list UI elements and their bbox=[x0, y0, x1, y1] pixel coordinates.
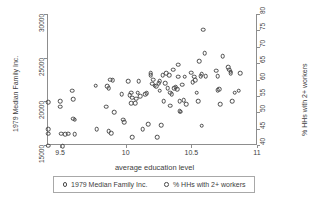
scatter-point bbox=[230, 99, 235, 104]
scatter-point bbox=[179, 110, 184, 115]
scatter-point bbox=[217, 87, 222, 92]
scatter-point bbox=[159, 123, 164, 128]
scatter-point bbox=[202, 51, 207, 56]
y-axis-right-tick-label: 80 bbox=[259, 7, 266, 14]
y-axis-right-tick-label: 40 bbox=[259, 138, 266, 145]
x-axis-tick-label: 11 bbox=[253, 149, 260, 156]
y-axis-left-title: 1979 Median Family Inc. bbox=[12, 56, 19, 132]
scatter-point bbox=[133, 101, 138, 106]
scatter-point bbox=[238, 71, 243, 76]
legend-label: 1979 Median Family Inc. bbox=[71, 181, 147, 188]
y-axis-right-tick-label: 55 bbox=[259, 89, 266, 96]
scatter-point bbox=[104, 104, 109, 109]
y-axis-right-tick bbox=[257, 63, 260, 64]
y-axis-right-tick-label: 45 bbox=[259, 121, 266, 128]
scatter-point bbox=[158, 89, 163, 94]
chart-legend: 1979 Median Family Inc. % HHs with 2+ wo… bbox=[53, 176, 255, 193]
x-axis-tick bbox=[126, 145, 127, 148]
y-axis-left-tick-label: 25000 bbox=[38, 58, 45, 76]
x-axis-title: average education level bbox=[0, 163, 309, 172]
scatter-point bbox=[46, 100, 51, 105]
scatter-point bbox=[167, 73, 172, 78]
scatter-point bbox=[176, 75, 181, 80]
scatter-point bbox=[162, 99, 167, 104]
scatter-point bbox=[71, 97, 76, 102]
scatter-point bbox=[201, 27, 206, 32]
scatter-point bbox=[221, 54, 226, 59]
scatter-point bbox=[137, 79, 142, 84]
axis-spine-bottom bbox=[47, 144, 257, 145]
plot-area: 15000200002500030000 404550556065707580 … bbox=[47, 14, 257, 145]
legend-label: % HHs with 2+ workers bbox=[173, 181, 246, 188]
legend-item-hhs-2plus-workers: % HHs with 2+ workers bbox=[164, 181, 245, 188]
y-axis-left-tick-label: 15000 bbox=[38, 145, 45, 163]
x-axis-tick bbox=[191, 145, 192, 148]
y-axis-right-tick bbox=[257, 30, 260, 31]
scatter-point bbox=[126, 79, 131, 84]
scatter-point bbox=[196, 99, 201, 104]
scatter-point bbox=[180, 82, 185, 87]
scatter-point bbox=[175, 87, 180, 92]
scatter-point bbox=[144, 91, 149, 96]
scatter-point bbox=[184, 102, 189, 107]
scatter-chart-figure: 1979 Median Family Inc. % HHs with 2+ wo… bbox=[0, 0, 309, 202]
scatter-point bbox=[129, 90, 134, 95]
y-axis-right-title: % HHs with 2+ workers bbox=[301, 63, 308, 136]
axis-spine-left bbox=[47, 14, 48, 145]
scatter-point bbox=[146, 122, 151, 127]
scatter-point bbox=[109, 131, 114, 136]
scatter-point bbox=[93, 83, 98, 88]
scatter-point bbox=[197, 59, 202, 64]
scatter-point bbox=[106, 86, 111, 91]
open-circle-icon bbox=[63, 182, 68, 187]
scatter-point bbox=[58, 104, 63, 109]
scatter-point bbox=[46, 144, 51, 149]
y-axis-right-tick-label: 75 bbox=[259, 23, 266, 30]
scatter-point bbox=[72, 117, 77, 122]
x-axis-tick-label: 9.5 bbox=[55, 149, 65, 156]
scatter-point bbox=[46, 131, 51, 136]
y-axis-right-tick-label: 70 bbox=[259, 40, 266, 47]
y-axis-right-tick bbox=[257, 112, 260, 113]
scatter-point bbox=[193, 78, 198, 83]
scatter-point bbox=[58, 99, 63, 104]
scatter-point bbox=[236, 89, 241, 94]
scatter-point bbox=[200, 123, 205, 128]
legend-item-median-family-inc: 1979 Median Family Inc. bbox=[63, 181, 148, 188]
x-axis-tick-label: 10 bbox=[122, 149, 130, 156]
scatter-point bbox=[158, 79, 163, 84]
scatter-point bbox=[215, 74, 220, 79]
scatter-point bbox=[60, 144, 65, 149]
scatter-point bbox=[194, 90, 199, 95]
scatter-point bbox=[151, 77, 156, 82]
scatter-point bbox=[176, 62, 181, 67]
x-axis-tick bbox=[257, 145, 258, 148]
scatter-point bbox=[130, 135, 135, 140]
scatter-point bbox=[169, 92, 174, 97]
scatter-point bbox=[214, 68, 219, 73]
scatter-point bbox=[141, 127, 146, 132]
scatter-point bbox=[70, 89, 75, 94]
scatter-point bbox=[120, 92, 125, 97]
y-axis-right-tick-label: 50 bbox=[259, 105, 266, 112]
x-axis-tick-label: 10.5 bbox=[185, 149, 199, 156]
y-axis-right-tick bbox=[257, 14, 260, 15]
scatter-point bbox=[228, 71, 233, 76]
y-axis-left-tick-label: 30000 bbox=[38, 14, 45, 32]
scatter-point bbox=[183, 75, 188, 80]
scatter-point bbox=[155, 135, 160, 140]
scatter-point bbox=[66, 131, 71, 136]
scatter-point bbox=[122, 120, 127, 125]
scatter-point bbox=[112, 110, 117, 115]
scatter-point bbox=[204, 74, 209, 79]
scatter-point bbox=[171, 68, 176, 73]
open-circle-icon bbox=[164, 182, 169, 187]
scatter-point bbox=[218, 102, 223, 107]
y-axis-right-tick-label: 60 bbox=[259, 72, 266, 79]
scatter-point bbox=[168, 103, 173, 108]
scatter-point bbox=[95, 127, 100, 132]
scatter-point bbox=[138, 94, 143, 99]
y-axis-right-tick bbox=[257, 96, 260, 97]
y-axis-left-tick-label: 20000 bbox=[38, 101, 45, 119]
y-axis-right-tick-label: 65 bbox=[259, 56, 266, 63]
